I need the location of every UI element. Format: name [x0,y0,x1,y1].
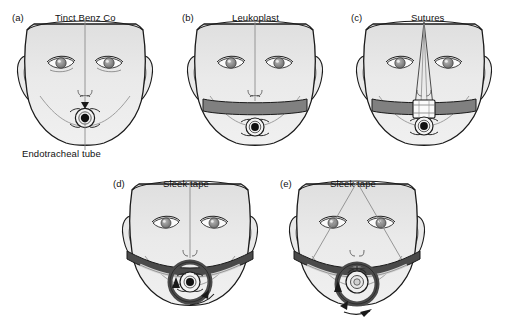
panel-d-label-sleek-tape: Sleek tape [163,178,209,189]
suture-block-c [413,100,435,118]
panel-b-label-leukoplast: Leukoplast [232,12,279,23]
panel-a-label-endotracheal-tube: Endotracheal tube [22,148,101,159]
panel-d: (d) Sleek tape [105,172,275,327]
panel-e-label-sleek-tape: Sleek tape [330,178,376,189]
panel-b-id: (b) [182,12,194,23]
panel-b: (b) Leukoplast [170,0,340,170]
panel-e-drawing [272,172,442,327]
panel-c: (c) Sutures [339,0,509,170]
panel-c-label-sutures: Sutures [411,12,444,23]
panel-e: (e) Sleek tape [272,172,442,327]
panel-e-id: (e) [280,178,292,189]
panel-c-id: (c) [351,12,362,23]
panel-a: (a) Tinct Benz Co Endotracheal tube [0,0,170,170]
panel-a-label-tinct-benz-co: Tinct Benz Co [55,12,116,23]
panel-d-drawing [105,172,275,327]
panel-a-id: (a) [12,12,24,23]
figure-endotracheal-tube-securing: (a) Tinct Benz Co Endotracheal tube [0,0,509,327]
panel-c-drawing [339,0,509,170]
panel-b-drawing [170,0,340,170]
panel-d-id: (d) [113,178,125,189]
panel-a-drawing [0,0,170,170]
